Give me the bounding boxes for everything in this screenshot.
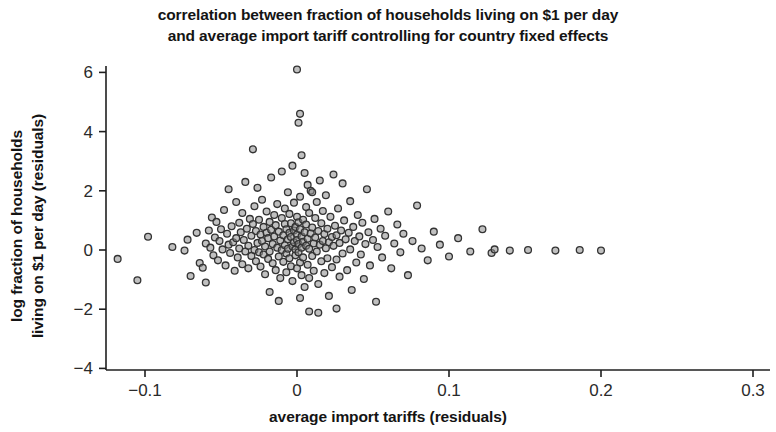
scatter-point (225, 186, 232, 193)
scatter-point (245, 265, 252, 272)
tick-marks (99, 72, 753, 377)
scatter-point (339, 250, 346, 257)
scatter-point (236, 219, 243, 226)
scatter-point (297, 110, 304, 117)
scatter-point (365, 229, 372, 236)
axes (106, 66, 770, 370)
y-tick-label-0: −4 (74, 359, 93, 378)
scatter-point (259, 196, 266, 203)
x-tick-label-2: 0.1 (437, 381, 461, 400)
scatter-point (222, 262, 229, 269)
scatter-point (394, 221, 401, 228)
scatter-point (298, 152, 305, 159)
scatter-point (291, 199, 298, 206)
scatter-point (324, 225, 331, 232)
scatter-point (315, 281, 322, 288)
scatter-point (332, 222, 339, 229)
scatter-point (347, 246, 354, 253)
scatter-point (263, 208, 270, 215)
scatter-point (353, 259, 360, 266)
scatter-point (224, 230, 231, 237)
scatter-point (272, 222, 279, 229)
scatter-point (271, 212, 278, 219)
scatter-point (257, 263, 264, 270)
scatter-point (297, 295, 304, 302)
scatter-point (367, 262, 374, 269)
scatter-point (382, 232, 389, 239)
scatter-point (424, 257, 431, 264)
scatter-point (218, 226, 225, 233)
scatter-point (467, 248, 474, 255)
scatter-point (251, 203, 258, 210)
scatter-point (228, 223, 235, 230)
scatter-point (231, 267, 238, 274)
scatter-point (370, 237, 377, 244)
scatter-point (336, 273, 343, 280)
scatter-point (315, 309, 322, 316)
scatter-chart-figure: correlation between fraction of househol… (0, 0, 776, 432)
scatter-point (344, 267, 351, 274)
scatter-point (193, 229, 200, 236)
x-tick-label-0: −0.1 (128, 381, 162, 400)
scatter-point (268, 174, 275, 181)
y-tick-label-3: 2 (84, 182, 93, 201)
scatter-point (377, 225, 384, 232)
scatter-point (356, 233, 363, 240)
scatter-point (348, 287, 355, 294)
scatter-point (446, 253, 453, 260)
scatter-point (298, 272, 305, 279)
scatter-point (360, 276, 367, 283)
scatter-point (418, 245, 425, 252)
scatter-point (269, 260, 276, 267)
data-points (114, 66, 604, 316)
scatter-point (345, 229, 352, 236)
scatter-point (330, 171, 337, 178)
scatter-point (362, 241, 369, 248)
scatter-point (256, 216, 263, 223)
scatter-point (397, 249, 404, 256)
scatter-point (297, 193, 304, 200)
scatter-point (388, 265, 395, 272)
scatter-point (233, 199, 240, 206)
scatter-point (219, 246, 226, 253)
scatter-point (213, 218, 220, 225)
scatter-point (240, 237, 247, 244)
x-tick-label-1: 0 (292, 381, 301, 400)
scatter-point (169, 244, 176, 251)
scatter-point (322, 192, 329, 199)
scatter-point (239, 210, 246, 217)
scatter-point (181, 247, 188, 254)
scatter-point (304, 261, 311, 268)
scatter-point (134, 277, 141, 284)
scatter-point (254, 184, 261, 191)
scatter-point (373, 298, 380, 305)
scatter-point (379, 254, 386, 261)
scatter-point (552, 247, 559, 254)
scatter-point (312, 234, 319, 241)
scatter-point (243, 225, 250, 232)
scatter-point (242, 179, 249, 186)
y-tick-label-2: 0 (84, 241, 93, 260)
scatter-point (306, 210, 313, 217)
scatter-point (598, 247, 605, 254)
scatter-point (216, 238, 223, 245)
scatter-point (414, 202, 421, 209)
scatter-point (371, 216, 378, 223)
scatter-point (525, 247, 532, 254)
scatter-point (400, 230, 407, 237)
scatter-point (145, 233, 152, 240)
scatter-point (455, 235, 462, 242)
scatter-point (321, 270, 328, 277)
scatter-point (284, 189, 291, 196)
scatter-point (335, 205, 342, 212)
scatter-point (364, 186, 371, 193)
scatter-point (319, 208, 326, 215)
scatter-point (491, 246, 498, 253)
scatter-point (266, 248, 273, 255)
scatter-point (333, 256, 340, 263)
scatter-point (405, 272, 412, 279)
scatter-point (277, 275, 284, 282)
scatter-point (313, 248, 320, 255)
scatter-point (207, 244, 214, 251)
scatter-point (234, 254, 241, 261)
